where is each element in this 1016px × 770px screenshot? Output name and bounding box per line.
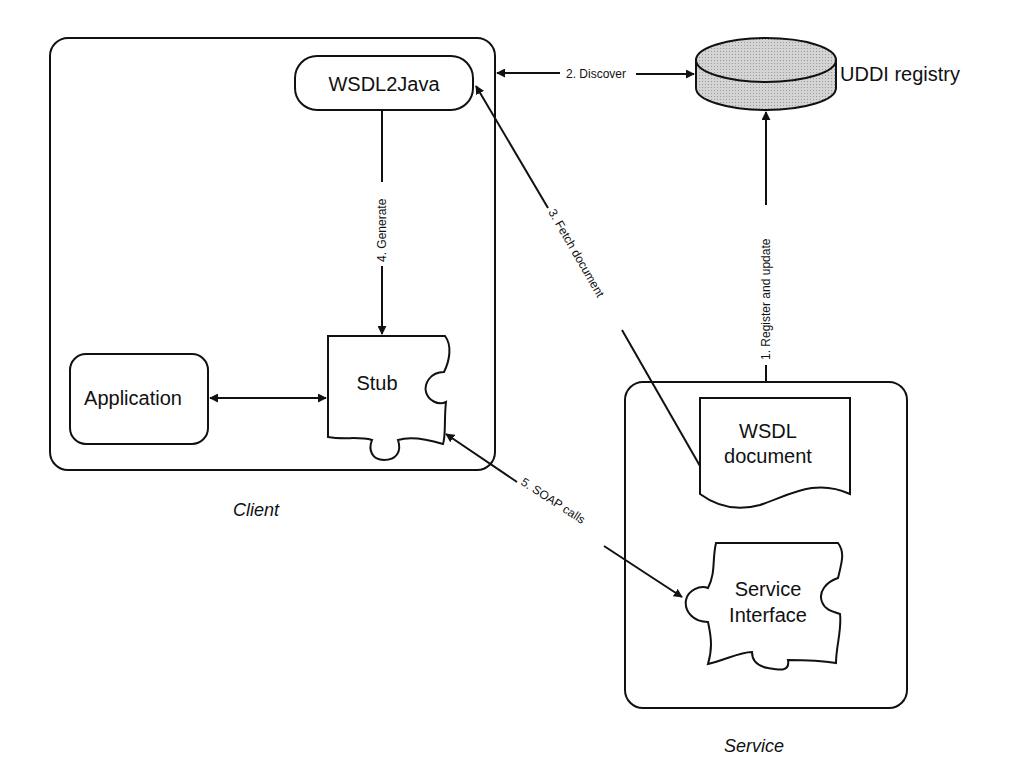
edge-fetch-label: 3. Fetch document	[545, 207, 607, 301]
service-interface-line2: Interface	[729, 604, 807, 626]
application-label: Application	[84, 387, 182, 409]
service-caption: Service	[724, 736, 784, 756]
wsdl-document-line2: document	[724, 445, 812, 467]
edge-generate-label: 4. Generate	[375, 198, 389, 262]
edge-register-and-update: 1. Register and update	[759, 112, 773, 382]
client-caption: Client	[233, 500, 280, 520]
stub-label: Stub	[356, 372, 397, 394]
edge-register-label: 1. Register and update	[759, 238, 773, 360]
edge-fetch-document: 3. Fetch document	[476, 86, 700, 466]
wsdl2java-label: WSDL2Java	[328, 73, 440, 95]
uddi-registry-node[interactable]: UDDI registry	[696, 38, 960, 110]
uddi-registry-label: UDDI registry	[840, 63, 960, 85]
service-interface-line1: Service	[735, 578, 802, 600]
edge-discover: 2. Discover	[497, 67, 694, 81]
edge-soap-label: 5. SOAP calls	[518, 475, 588, 527]
wsdl-document-line1: WSDL	[739, 420, 797, 442]
architecture-diagram: Client Service WSDL2Java Application Stu…	[0, 0, 1016, 770]
edge-discover-label: 2. Discover	[566, 67, 626, 81]
application-node[interactable]: Application	[70, 354, 208, 444]
wsdl2java-node[interactable]: WSDL2Java	[295, 56, 473, 110]
